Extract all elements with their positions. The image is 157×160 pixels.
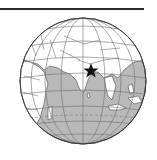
globe-map — [0, 0, 157, 160]
